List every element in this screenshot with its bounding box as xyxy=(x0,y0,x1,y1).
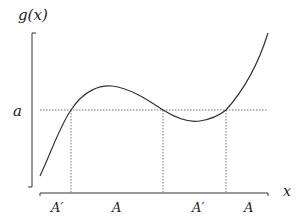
interval-label-1: A′ xyxy=(50,200,63,215)
y-axis xyxy=(28,33,36,187)
diagram-canvas: g(x) a x A′ A A′ A xyxy=(0,0,304,222)
x-axis xyxy=(40,193,268,196)
interval-label-4: A xyxy=(243,200,253,215)
x-axis-label: x xyxy=(283,183,291,199)
g-curve xyxy=(40,33,268,176)
interval-label-2: A xyxy=(111,200,121,215)
level-label: a xyxy=(13,102,22,120)
interval-label-3: A′ xyxy=(191,200,204,215)
y-axis-label: g(x) xyxy=(18,6,48,24)
